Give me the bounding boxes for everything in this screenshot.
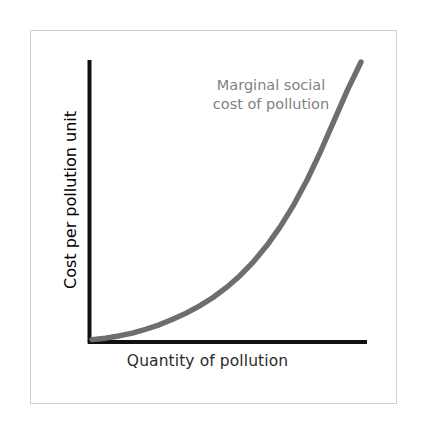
curve-annotation-line-2: cost of pollution — [196, 95, 346, 114]
curve-annotation-line-1: Marginal social — [196, 76, 346, 95]
y-axis-title-text: Cost per pollution unit — [61, 111, 80, 289]
curve-annotation: Marginal social cost of pollution — [196, 76, 346, 114]
x-axis-title-text: Quantity of pollution — [127, 352, 288, 370]
figure-container: Cost per pollution unit Quantity of poll… — [0, 0, 425, 439]
x-axis-title: Quantity of pollution — [0, 352, 425, 370]
